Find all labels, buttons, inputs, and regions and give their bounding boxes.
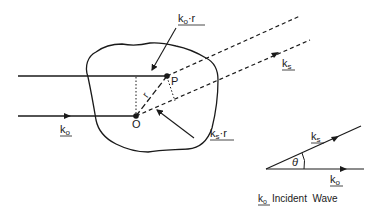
arrow-head-ko bbox=[64, 113, 71, 119]
inset-ks-arrowhead bbox=[331, 136, 339, 142]
scatterer-outline bbox=[86, 43, 218, 152]
label-theta: θ bbox=[292, 156, 298, 168]
inset-label-ko: ko bbox=[330, 173, 341, 187]
inset-ko-arrowhead bbox=[340, 166, 347, 172]
theta-arc bbox=[302, 153, 305, 169]
pointer-ks-dot-r bbox=[157, 110, 194, 138]
label-vector-r: r bbox=[140, 90, 151, 100]
pointer-ko-dot-r bbox=[152, 28, 176, 70]
label-ks: ks bbox=[282, 57, 292, 71]
label-point-P: P bbox=[171, 75, 178, 87]
label-ko-dot-r: ko·r bbox=[178, 12, 196, 26]
label-point-O: O bbox=[132, 118, 141, 130]
label-ks-dot-r: ks·r bbox=[210, 127, 227, 141]
vector-r bbox=[136, 76, 167, 116]
inset-label-ks: ks bbox=[311, 130, 321, 144]
label-ko: ko bbox=[60, 123, 71, 137]
scattering-diagram: ko·r ks ko P O r ks·r θ ks ko koIncident… bbox=[0, 0, 382, 208]
caption-incident-wave: koIncident Wave bbox=[258, 193, 338, 205]
point-P-dot bbox=[164, 73, 170, 79]
